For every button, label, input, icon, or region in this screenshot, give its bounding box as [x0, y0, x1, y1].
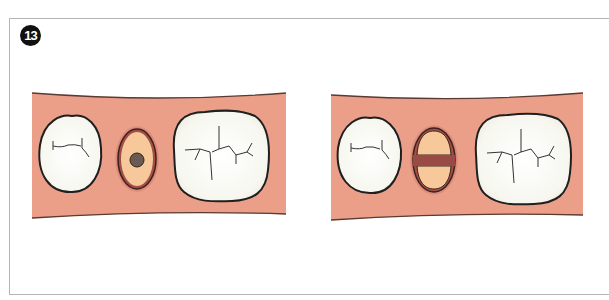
right-panel	[331, 93, 583, 220]
molar-tooth	[476, 114, 571, 205]
molar-tooth	[174, 111, 269, 202]
premolar-tooth	[39, 116, 101, 192]
restoration-dot	[115, 126, 159, 192]
premolar-tooth	[338, 118, 401, 193]
left-panel	[32, 93, 286, 218]
restoration-band	[410, 125, 458, 195]
